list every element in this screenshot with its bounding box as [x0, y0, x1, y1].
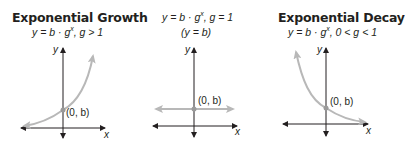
growth-curve: [24, 110, 63, 126]
y-axis-label: y: [316, 44, 323, 55]
x-axis-label: x: [365, 125, 372, 136]
constant-graph: (0, b) y x: [125, 0, 255, 156]
x-axis-label: x: [103, 129, 110, 140]
decay-graph: (0, b) y x: [250, 0, 380, 156]
point-label: (0, b): [198, 95, 221, 106]
growth-panel: Exponential Growth y = b · gx, g > 1 (0,…: [0, 0, 128, 156]
y-axis-label: y: [184, 44, 191, 55]
growth-graph: (0, b) y x: [0, 0, 128, 156]
x-axis-label: x: [234, 126, 241, 137]
constant-panel: y = b · gx, g = 1 (y = b) (0, b) y x: [125, 0, 255, 156]
point-label: (0, b): [66, 107, 89, 118]
y-intercept-point: [192, 107, 197, 112]
decay-curve: [296, 52, 326, 108]
y-axis-label: y: [52, 44, 59, 55]
y-intercept-point: [61, 108, 66, 113]
point-label: (0, b): [330, 96, 353, 107]
decay-panel: Exponential Decay y = b · gx, 0 < g < 1 …: [250, 0, 380, 156]
y-intercept-point: [324, 106, 329, 111]
